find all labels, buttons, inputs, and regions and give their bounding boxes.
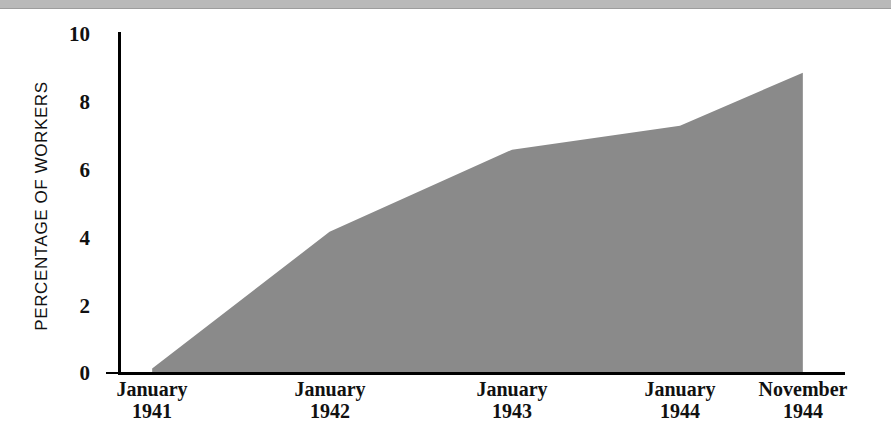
area-chart-figure: PERCENTAGE OF WORKERS 10 8 6 4 2 0 Janua…	[0, 0, 891, 438]
x-tick-line1: January	[476, 378, 547, 400]
x-tick-label-january-1943: January 1943	[427, 379, 597, 422]
x-tick-label-january-1941: January 1941	[67, 379, 237, 422]
x-tick-line2: 1942	[245, 401, 415, 423]
x-tick-line2: 1944	[718, 401, 888, 423]
y-tick-label-10: 10	[44, 24, 90, 45]
x-tick-line1: November	[759, 378, 848, 400]
y-tick-mark-0	[106, 372, 118, 374]
y-tick-label-6: 6	[44, 160, 90, 181]
x-tick-line1: January	[644, 378, 715, 400]
plot-area	[118, 30, 845, 374]
y-tick-label-2: 2	[44, 296, 90, 317]
x-tick-line2: 1941	[67, 401, 237, 423]
y-axis-title: PERCENTAGE OF WORKERS	[32, 36, 52, 376]
x-tick-label-november-1944: November 1944	[718, 379, 888, 422]
x-tick-label-january-1942: January 1942	[245, 379, 415, 422]
x-tick-line1: January	[294, 378, 365, 400]
area-series-shape	[118, 30, 845, 374]
x-tick-line2: 1943	[427, 401, 597, 423]
y-tick-label-8: 8	[44, 92, 90, 113]
y-tick-label-4: 4	[44, 228, 90, 249]
x-tick-line1: January	[116, 378, 187, 400]
